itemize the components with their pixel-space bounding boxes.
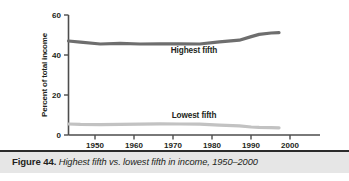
y-axis-title: Percent of total income <box>40 32 49 117</box>
x-tick-label-1960: 1960 <box>125 141 143 148</box>
x-tick-label-1980: 1980 <box>203 141 221 148</box>
x-tick-label-2000: 2000 <box>281 141 299 148</box>
line-chart: 60 40 20 0 Percent of total income 1950 … <box>0 0 349 148</box>
series-line-highest-fifth <box>69 33 280 44</box>
figure-44: 60 40 20 0 Percent of total income 1950 … <box>0 0 349 181</box>
x-tick-label-1990: 1990 <box>242 141 260 148</box>
chart-plot-area: 60 40 20 0 Percent of total income 1950 … <box>0 0 349 148</box>
series-line-lowest-fifth <box>69 124 280 128</box>
y-axis-tick-labels: 60 40 20 0 <box>52 11 61 140</box>
y-tick-label-40: 40 <box>52 51 61 60</box>
figure-caption: Figure 44. Highest fifth vs. lowest fift… <box>12 155 342 169</box>
y-tick-label-60: 60 <box>52 11 61 20</box>
caption-figure-label: Figure 44. <box>12 156 56 167</box>
x-tick-label-1950: 1950 <box>86 141 104 148</box>
series-label-highest-fifth: Highest fifth <box>171 46 218 55</box>
series-label-lowest-fifth: Lowest fifth <box>172 111 217 120</box>
x-axis-tick-labels: 1950 1960 1970 1980 1990 2000 <box>86 141 299 148</box>
y-tick-label-20: 20 <box>52 91 61 100</box>
caption-title: Highest fifth vs. lowest fifth in income… <box>59 157 258 167</box>
x-tick-label-1970: 1970 <box>164 141 182 148</box>
y-tick-label-0: 0 <box>57 131 62 140</box>
